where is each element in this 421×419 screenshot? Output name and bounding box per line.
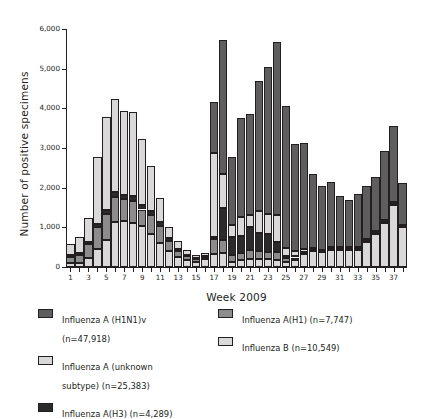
legend-column-right: Influenza A(H1) (n=7,747)Influenza B (n=… [218,308,418,364]
plot-area [66,29,407,267]
bar-segment-b [371,234,379,267]
bar-segment-b [219,253,227,267]
bar-segment-b [111,222,119,267]
bar-segment-h1 [66,257,74,263]
x-axis-tick-label: 25 [281,274,290,282]
x-axis-tick [70,268,71,272]
legend-entry: Influenza A (unknown subtype) (n=25,383) [38,355,208,393]
bar-segment-b [264,259,272,267]
bar-segment-h1n1v [255,81,263,211]
bar-segment-h1 [237,253,245,260]
x-axis-tick [160,268,161,272]
bar-segment-unknown [273,215,281,242]
bar-week-24 [273,29,281,267]
x-axis-tick [259,268,260,272]
bar-segment-unknown [255,211,263,233]
legend-label: Influenza B (n=10,549) [242,343,340,353]
legend-label: Influenza A (H1N1)v (n=47,918) [62,315,146,344]
x-axis-tick-label: 27 [299,274,308,282]
legend-swatch-h3 [38,403,53,412]
bar-segment-unknown [237,217,245,235]
bar-week-11 [156,29,164,267]
bar-week-28 [309,29,317,267]
x-axis-tick [187,268,188,272]
bar-segment-h1n1v [380,151,388,220]
bar-segment-h1 [156,226,164,243]
bar-segment-h1 [84,244,92,258]
bar-week-1 [66,29,74,267]
x-axis-tick-label: 3 [86,274,91,282]
bar-week-20 [237,29,245,267]
bar-segment-h1 [282,258,290,262]
x-axis-tick [304,268,305,272]
bar-segment-b [336,250,344,267]
bar-segment-b [147,234,155,267]
bar-segment-h1n1v [246,114,254,215]
x-axis-tick-label: 21 [245,274,254,282]
bar-week-12 [165,29,173,267]
bar-segment-unknown [300,249,308,252]
bar-segment-unknown [165,227,173,239]
legend-label: Influenza A (unknown subtype) (n=25,383) [62,362,153,391]
y-axis-tick [62,148,66,149]
bar-segment-h3 [111,192,119,197]
bar-segment-b [93,249,101,267]
x-axis-tick-label: 9 [140,274,145,282]
bar-segment-unknown [66,244,74,255]
x-axis-tick [394,268,395,272]
legend-entry: Influenza A (H1N1)v (n=47,918) [38,308,208,346]
bar-segment-h1 [291,258,299,260]
bar-segment-b [201,259,209,267]
bar-segment-h3 [93,224,101,227]
bar-segment-h3 [273,242,281,253]
bar-segment-b [327,250,335,267]
bar-segment-b [174,257,182,267]
x-axis-tick [331,268,332,272]
y-axis-tick-label: 1,000 [39,224,60,231]
bar-segment-h1 [255,251,263,259]
bar-week-29 [318,29,326,267]
bar-segment-h3 [237,236,245,253]
bar-segment-h3 [156,222,164,226]
y-axis-tick-label: 5,000 [39,65,60,72]
bar-segment-h1 [174,251,182,257]
bar-segment-h3 [138,205,146,210]
bar-segment-unknown [192,255,200,259]
y-axis-tick-label: 0 [55,263,60,270]
bar-segment-unknown [102,117,110,210]
bar-segment-h1n1v [282,106,290,248]
x-axis-tick [178,268,179,272]
bar-segment-b [129,223,137,267]
bar-week-19 [228,29,236,267]
bar-segment-h1n1v [327,182,335,247]
bar-segment-unknown [228,225,236,237]
bar-segment-h3 [102,210,110,214]
x-axis-tick [322,268,323,272]
bar-segment-h1 [75,255,83,263]
x-axis-tick [340,268,341,272]
y-axis-tick-label: 4,000 [39,105,60,112]
bar-segment-h3 [147,211,155,216]
bar-segment-h1n1v [336,196,344,246]
bar-week-38 [398,29,406,267]
bar-segment-h1 [102,214,110,240]
bar-week-25 [282,29,290,267]
bar-segment-h1 [147,215,155,234]
legend-entry: Influenza B (n=10,549) [218,336,418,355]
x-axis-tick [124,268,125,272]
bar-segment-h1 [192,259,200,261]
bar-segment-unknown [201,253,209,255]
bar-segment-h1 [219,240,227,253]
bar-segment-unknown [120,111,128,195]
bar-segment-h1 [165,241,173,251]
x-axis-tick [367,268,368,272]
bar-week-5 [102,29,110,267]
x-axis-tick [169,268,170,272]
x-axis-tick-label: 15 [192,274,201,282]
x-axis-tick [241,268,242,272]
bar-segment-h1n1v [318,186,326,250]
x-axis-tick-label: 13 [174,274,183,282]
bar-segment-unknown [84,218,92,242]
x-axis-tick-label: 33 [353,274,362,282]
bar-segment-b [255,259,263,267]
